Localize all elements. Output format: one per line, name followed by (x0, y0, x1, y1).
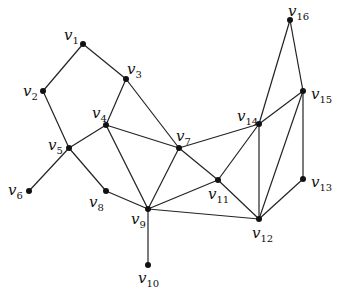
edge-v1-v3 (83, 44, 126, 79)
node-label-subscript: 7 (184, 136, 190, 147)
graph-diagram: v1v2v3v4v5v6v7v8v9v10v11v12v13v14v15v16 (0, 0, 338, 295)
node-v11 (215, 177, 221, 183)
node-label-subscript: 11 (216, 194, 229, 205)
edge-v5-v6 (29, 148, 69, 191)
edge-v14-v16 (259, 20, 290, 124)
node-label-v13: v13 (311, 173, 332, 193)
node-label-v16: v16 (288, 2, 309, 22)
edge-v14-v15 (259, 91, 303, 124)
node-v2 (40, 88, 46, 94)
node-label-v3: v3 (127, 60, 142, 80)
node-label-subscript: 15 (319, 94, 332, 105)
edge-v4-v5 (69, 125, 106, 148)
node-label-v1: v1 (64, 26, 79, 46)
node-label-subscript: 13 (319, 182, 332, 193)
node-label-subscript: 3 (135, 69, 141, 80)
node-v15 (300, 88, 306, 94)
node-label-v10: v10 (138, 269, 159, 289)
node-label-v4: v4 (92, 104, 107, 124)
node-label-v15: v15 (311, 85, 332, 105)
edge-v4-v9 (106, 125, 148, 209)
node-label-v7: v7 (176, 127, 191, 147)
node-label-subscript: 2 (31, 91, 37, 102)
node-label-v14: v14 (237, 107, 258, 127)
node-v8 (103, 188, 109, 194)
node-label-subscript: 1 (72, 35, 78, 46)
edge-v3-v7 (126, 79, 179, 148)
node-label-v6: v6 (8, 181, 23, 201)
node-label-v2: v2 (23, 82, 38, 102)
edge-v8-v9 (106, 191, 148, 209)
node-label-subscript: 12 (260, 233, 273, 244)
node-v12 (256, 216, 262, 222)
edges-layer (29, 20, 303, 265)
node-label-v8: v8 (89, 193, 104, 213)
node-label-subscript: 8 (97, 202, 103, 213)
node-label-subscript: 10 (146, 278, 159, 289)
edge-v3-v4 (106, 79, 126, 125)
node-label-subscript: 16 (296, 11, 309, 22)
edge-v7-v11 (179, 148, 218, 180)
nodes-layer (26, 17, 306, 268)
node-v6 (26, 188, 32, 194)
node-v1 (80, 41, 86, 47)
node-v10 (145, 262, 151, 268)
node-label-v5: v5 (48, 136, 63, 156)
edge-v11-v14 (218, 124, 259, 180)
node-v9 (145, 206, 151, 212)
node-label-subscript: 9 (139, 219, 145, 230)
node-label-subscript: 14 (245, 116, 258, 127)
node-label-subscript: 6 (16, 190, 22, 201)
node-label-v12: v12 (252, 224, 273, 244)
node-v7 (176, 145, 182, 151)
node-label-v9: v9 (131, 210, 146, 230)
edge-v1-v2 (43, 44, 83, 91)
node-v5 (66, 145, 72, 151)
node-v13 (300, 176, 306, 182)
edge-v16-v15 (290, 20, 303, 91)
edge-v7-v14 (179, 124, 259, 148)
node-label-subscript: 4 (100, 113, 106, 124)
node-label-subscript: 5 (56, 145, 62, 156)
edge-v5-v8 (69, 148, 106, 191)
edge-v4-v7 (106, 125, 179, 148)
edge-v9-v12 (148, 209, 259, 219)
edge-v9-v7 (148, 148, 179, 209)
